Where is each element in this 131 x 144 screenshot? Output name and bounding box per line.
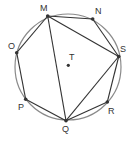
point-q: [64, 119, 68, 123]
label-m: M: [40, 3, 48, 13]
segment-qp: [26, 99, 66, 120]
label-n: N: [95, 6, 102, 16]
segment-ns: [93, 19, 119, 57]
label-q: Q: [62, 124, 69, 134]
segment-ms: [48, 16, 119, 57]
point-p: [24, 98, 28, 102]
point-s: [117, 55, 121, 59]
polygon-edges: [17, 16, 119, 121]
segment-om: [17, 16, 48, 53]
label-o: O: [8, 41, 15, 51]
label-r: R: [108, 106, 115, 116]
label-s: S: [120, 44, 126, 54]
segment-rq: [66, 102, 107, 121]
point-n: [91, 17, 95, 21]
label-p: P: [18, 102, 24, 112]
point-t: [67, 64, 70, 67]
label-t: T: [69, 52, 75, 62]
point-m: [46, 14, 50, 18]
circumscribed-circle: [15, 14, 121, 120]
point-r: [106, 100, 110, 104]
point-o: [15, 51, 19, 55]
vertex-points: [15, 14, 121, 122]
segment-mq: [48, 16, 66, 121]
inscribed-polygon-diagram: MNSRQPOT: [0, 0, 131, 144]
